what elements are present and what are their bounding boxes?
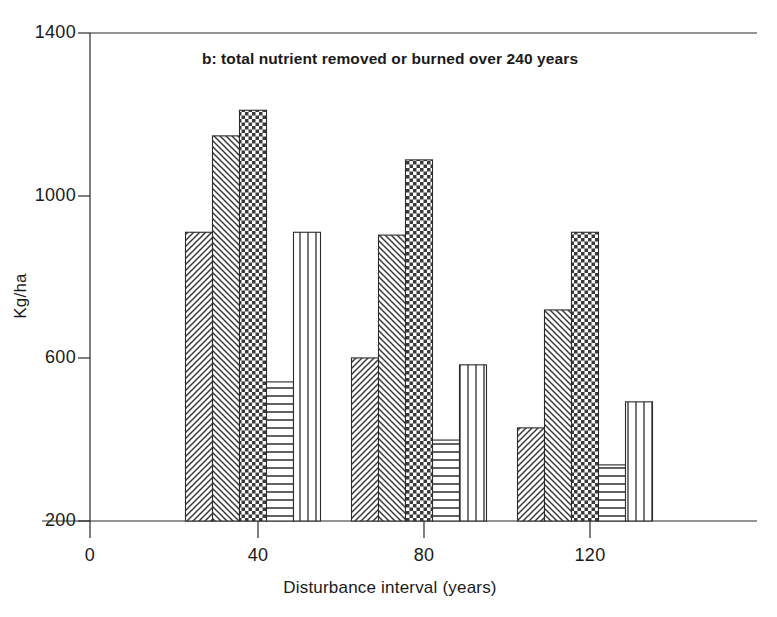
bar-40-series-3 — [240, 110, 267, 521]
bar-120-series-4 — [599, 465, 626, 521]
bar-120-series-5 — [626, 402, 653, 521]
bar-80-series-4 — [433, 440, 460, 521]
bar-40-series-2 — [213, 136, 240, 521]
bar-40-series-4 — [267, 382, 294, 521]
bar-40-series-1 — [186, 232, 213, 521]
bar-80-series-2 — [379, 235, 406, 521]
bar-40-series-5 — [294, 232, 321, 521]
bar-120-series-3 — [572, 232, 599, 521]
bar-80-series-1 — [352, 358, 379, 521]
bar-120-series-2 — [545, 310, 572, 521]
chart-figure: b: total nutrient removed or burned over… — [0, 0, 777, 617]
bar-80-series-3 — [406, 160, 433, 521]
bars-layer — [0, 0, 777, 617]
bar-120-series-1 — [518, 428, 545, 521]
bar-80-series-5 — [460, 365, 487, 521]
